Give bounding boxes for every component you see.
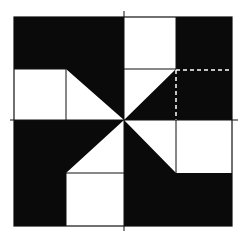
pinwheel-diagram xyxy=(0,0,245,233)
